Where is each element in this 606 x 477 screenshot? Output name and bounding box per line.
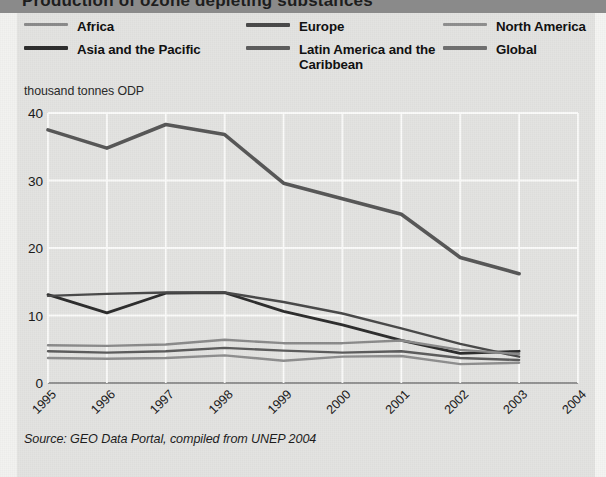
- svg-text:2001: 2001: [383, 387, 413, 417]
- svg-text:1997: 1997: [147, 387, 177, 417]
- svg-text:20: 20: [28, 241, 44, 256]
- svg-text:2002: 2002: [442, 387, 472, 417]
- plot-area: 403020100 199519961997199819992000200120…: [0, 0, 606, 477]
- svg-text:1996: 1996: [88, 387, 118, 417]
- y-axis-ticks: 403020100: [28, 106, 44, 391]
- svg-text:0: 0: [35, 376, 43, 391]
- source-note: Source: GEO Data Portal, compiled from U…: [24, 432, 316, 446]
- svg-text:10: 10: [28, 309, 44, 324]
- svg-text:1999: 1999: [265, 387, 295, 417]
- x-axis-ticks: 1995199619971998199920002001200220032004: [29, 387, 589, 417]
- svg-text:30: 30: [28, 174, 44, 189]
- svg-text:1995: 1995: [29, 387, 59, 417]
- svg-text:1998: 1998: [206, 387, 236, 417]
- svg-text:2000: 2000: [324, 387, 354, 417]
- svg-text:2003: 2003: [501, 387, 531, 417]
- svg-text:40: 40: [28, 106, 44, 121]
- svg-text:2004: 2004: [559, 387, 589, 417]
- plot-svg: 403020100 199519961997199819992000200120…: [0, 0, 606, 477]
